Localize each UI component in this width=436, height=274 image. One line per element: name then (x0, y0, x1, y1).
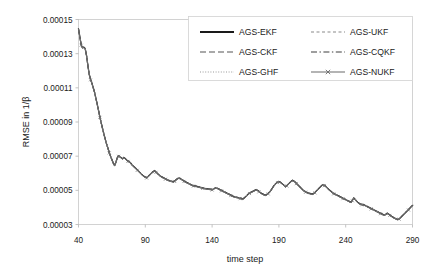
legend-label-ags-cqkf: AGS-CQKF (350, 47, 395, 57)
y-tick-label: 0.00009 (43, 118, 73, 127)
x-tick-label: 290 (406, 236, 420, 245)
x-tick-label: 90 (141, 236, 151, 245)
y-tick-label: 0.00015 (43, 16, 73, 25)
y-tick-label: 0.00011 (44, 84, 73, 93)
y-tick-label: 0.00013 (43, 50, 73, 59)
x-tick-label: 240 (339, 236, 353, 245)
x-tick-label: 140 (205, 236, 219, 245)
legend-label-ags-ukf: AGS-UKF (350, 27, 388, 37)
legend-label-ags-ekf: AGS-EKF (239, 27, 277, 37)
y-tick-label: 0.00007 (43, 152, 73, 161)
legend-label-ags-nukf: AGS-NUKF (350, 67, 394, 77)
x-axis-title: time step (227, 254, 264, 264)
legend-label-ags-ckf: AGS-CKF (239, 47, 277, 57)
legend: AGS-EKFAGS-UKFAGS-CKFAGS-CQKFAGS-GHFAGS-… (189, 17, 413, 81)
y-tick-label: 0.00005 (43, 186, 73, 195)
y-tick-label: 0.00003 (43, 221, 73, 230)
x-tick-label: 40 (74, 236, 84, 245)
chart-container: 0.000030.000050.000070.000090.000110.000… (0, 0, 436, 274)
legend-label-ags-ghf: AGS-GHF (239, 67, 278, 77)
rmse-line-chart: 0.000030.000050.000070.000090.000110.000… (0, 0, 436, 274)
y-axis-title: RMSE in 1/β (21, 97, 31, 148)
x-tick-label: 190 (272, 236, 286, 245)
